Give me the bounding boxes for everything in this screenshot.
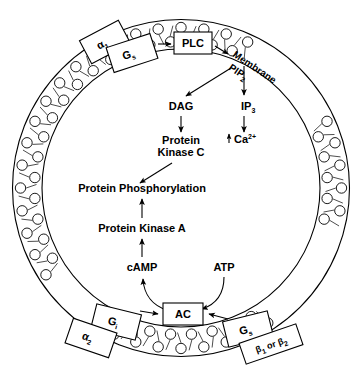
lipid-tail-inner: [170, 26, 173, 37]
messenger-ip3: IP3: [241, 100, 255, 114]
lipid-tail-outer: [198, 332, 203, 342]
lipid-head-inner: [322, 172, 332, 182]
lipid-head-inner: [319, 152, 329, 162]
lipid-tail-outer: [324, 210, 335, 212]
messenger-calcium-label: Ca2+: [234, 133, 256, 145]
lipid-tail-outer: [326, 188, 336, 192]
lipid-tail-outer: [28, 205, 38, 210]
lipid-head-outer: [322, 116, 332, 126]
lipid-head-outer: [335, 206, 345, 216]
lipid-tail-outer: [321, 144, 330, 150]
lipid-tail-outer: [314, 124, 322, 131]
lipid-head-outer: [176, 22, 186, 32]
lipid-tail-outer: [40, 245, 48, 252]
lipid-tail-inner: [189, 340, 192, 351]
lipid-head-inner: [47, 113, 57, 123]
lipid-head-inner: [313, 132, 323, 142]
lipid-tail-inner: [234, 37, 241, 45]
lipid-head-inner: [30, 193, 40, 203]
lipid-head-inner: [145, 326, 155, 336]
lipid-head-inner: [322, 193, 332, 203]
lipid-head-outer: [330, 138, 340, 148]
arrow-gs-to-ac: [209, 314, 228, 319]
lipid-tail-inner: [330, 220, 339, 226]
lipid-tail-outer: [28, 164, 39, 166]
lipid-head-outer: [30, 249, 40, 259]
lipid-tail-inner: [23, 150, 32, 156]
lipid-head-outer: [336, 183, 346, 193]
lipid-head-outer: [153, 24, 163, 34]
arrow-gi-to-ac: [140, 311, 158, 314]
lipid-head-outer: [176, 343, 186, 353]
lipid-tail-outer: [26, 184, 36, 188]
lipid-tail-inner: [21, 219, 32, 220]
lipid-head-inner: [33, 214, 43, 224]
lipid-head-inner: [88, 66, 98, 76]
arrow-atp-to-ac: [202, 277, 224, 309]
lipid-tail-inner: [333, 199, 343, 203]
cell-signaling-diagram: α1 Gs PLC Membrane PIP2 DAG IP3: [0, 0, 363, 372]
lipid-tail-inner: [37, 261, 48, 263]
lipid-tail-inner: [212, 337, 213, 348]
lipid-tail-inner: [213, 30, 219, 39]
lipid-tail-inner: [69, 71, 74, 81]
lipid-tail-outer: [80, 71, 89, 76]
lipid-tail-outer: [325, 166, 335, 171]
lipid-tail-outer: [51, 104, 62, 107]
messenger-dag: DAG: [169, 100, 193, 112]
lipid-head-outer: [199, 342, 209, 352]
lipid-head-outer: [30, 116, 40, 126]
lipid-tail-inner: [53, 88, 59, 97]
enzyme-ac[interactable]: AC: [163, 303, 203, 325]
lipid-tail-inner: [333, 177, 344, 180]
lipid-head-inner: [39, 132, 49, 142]
output-protein-phosphorylation: Protein Phosphorylation: [78, 182, 206, 194]
lipid-head-outer: [41, 96, 51, 106]
enzyme-plc-label: PLC: [182, 37, 204, 49]
membrane-pip2-label: Membrane PIP2: [222, 49, 278, 99]
lipid-head-outer: [22, 138, 32, 148]
lipid-head-inner: [207, 326, 217, 336]
lipid-head-outer: [17, 206, 27, 216]
lipid-head-outer: [335, 160, 345, 170]
lipid-head-inner: [165, 329, 175, 339]
lipid-tail-inner: [30, 128, 38, 135]
lipid-head-outer: [71, 61, 81, 71]
enzyme-plc[interactable]: PLC: [174, 32, 212, 54]
kinase-pka: Protein Kinase A: [98, 222, 186, 234]
lipid-head-inner: [33, 152, 43, 162]
lipid-head-outer: [153, 342, 163, 352]
lipid-tail-outer: [218, 328, 224, 337]
messenger-camp: cAMP: [127, 261, 158, 273]
lipid-head-outer: [242, 37, 252, 47]
arrow-pkc-to-phosphorylation: [140, 163, 172, 183]
lipid-tail-inner: [40, 107, 47, 115]
lipid-tail-outer: [177, 333, 181, 343]
lipid-head-outer: [221, 29, 231, 39]
lipid-tail-outer: [157, 331, 159, 342]
lipid-head-inner: [186, 329, 196, 339]
lipid-tail-inner: [330, 156, 341, 157]
lipid-tail-outer: [51, 263, 58, 272]
kinase-pkc-line1: Protein: [162, 134, 200, 146]
lipid-tail-inner: [19, 173, 29, 177]
diagram-canvas: α1 Gs PLC Membrane PIP2 DAG IP3: [0, 0, 363, 372]
messenger-calcium: Ca2+: [229, 133, 256, 145]
lipid-tail-inner: [143, 337, 149, 346]
arrow-plc-to-pip2: [215, 46, 228, 54]
messenger-atp: ATP: [213, 261, 234, 273]
lipid-head-inner: [30, 172, 40, 182]
lipid-head-outer: [22, 228, 32, 238]
lipid-head-inner: [39, 234, 49, 244]
lipid-tail-inner: [19, 196, 30, 199]
lipid-head-inner: [319, 214, 329, 224]
lipid-tail-inner: [166, 340, 170, 350]
lipid-head-outer: [17, 160, 27, 170]
lipid-tail-outer: [159, 35, 164, 45]
lipid-head-outer: [41, 270, 51, 280]
lipid-head-inner: [47, 253, 57, 263]
lipid-head-inner: [59, 95, 69, 105]
lipid-tail-outer: [32, 225, 41, 231]
enzyme-ac-label: AC: [175, 308, 191, 320]
arrow-pip2-to-dag: [186, 68, 231, 96]
